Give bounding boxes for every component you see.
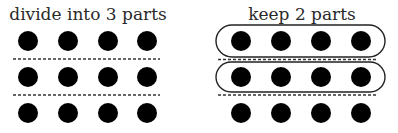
dot <box>58 103 78 123</box>
dot <box>311 103 331 123</box>
dot <box>98 31 118 51</box>
left-panel-title: divide into 3 parts <box>9 4 166 24</box>
dot <box>351 67 371 87</box>
dot <box>231 31 251 51</box>
right-dot-grid <box>231 31 371 123</box>
dot <box>311 67 331 87</box>
right-panel: keep 2 parts <box>216 4 385 123</box>
left-panel: divide into 3 parts <box>9 4 166 123</box>
dot <box>98 103 118 123</box>
dot <box>58 31 78 51</box>
dot <box>271 67 291 87</box>
dot <box>137 31 157 51</box>
dot <box>137 103 157 123</box>
dot <box>137 67 157 87</box>
dot <box>351 103 371 123</box>
dot <box>311 31 331 51</box>
dot <box>351 31 371 51</box>
dot <box>18 103 38 123</box>
dot <box>18 31 38 51</box>
dot <box>271 31 291 51</box>
dot <box>231 103 251 123</box>
fraction-diagram: divide into 3 parts keep 2 parts <box>0 0 398 133</box>
dot <box>231 67 251 87</box>
dot <box>18 67 38 87</box>
dot <box>98 67 118 87</box>
right-panel-title: keep 2 parts <box>248 4 356 24</box>
dot <box>271 103 291 123</box>
dot <box>58 67 78 87</box>
left-dot-grid <box>18 31 157 123</box>
